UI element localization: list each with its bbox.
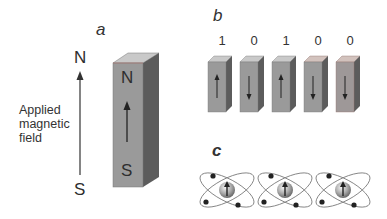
bit-magnet-4 <box>304 56 328 112</box>
atom-1 <box>195 166 258 214</box>
atoms <box>195 166 374 214</box>
atom-3 <box>311 166 374 214</box>
panel-c-label: c <box>212 141 221 161</box>
bit-value-4: 0 <box>310 33 326 48</box>
bar-magnet <box>113 53 159 187</box>
bit-value-5: 0 <box>342 33 358 48</box>
field-arrow-icon <box>77 71 84 175</box>
magnet-north-label: N <box>121 68 133 88</box>
bit-magnet-1 <box>208 56 232 112</box>
panel-b-label: b <box>213 6 222 26</box>
diagram-graphics <box>0 0 387 219</box>
magnet-south-label: S <box>121 161 132 181</box>
bit-magnet-3 <box>272 56 296 112</box>
bit-value-2: 0 <box>246 33 262 48</box>
bit-magnet-2 <box>240 56 264 112</box>
bit-magnet-5 <box>336 56 360 112</box>
atom-2 <box>253 166 316 214</box>
bit-magnets <box>208 56 360 112</box>
bit-value-3: 1 <box>278 33 294 48</box>
bit-value-1: 1 <box>214 33 230 48</box>
